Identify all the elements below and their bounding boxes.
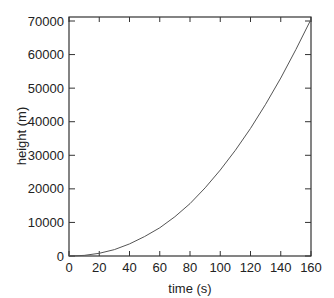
y-axis-ticks: 010000200003000040000500006000070000 bbox=[28, 14, 311, 264]
y-tick-label: 70000 bbox=[28, 14, 64, 29]
plot-frame bbox=[69, 17, 311, 256]
x-tick-label: 100 bbox=[209, 260, 231, 275]
y-axis-label: height (m) bbox=[14, 107, 29, 166]
x-tick-label: 0 bbox=[65, 260, 72, 275]
x-axis-ticks: 020406080100120140160 bbox=[65, 17, 321, 275]
height-curve bbox=[69, 19, 311, 256]
x-tick-label: 140 bbox=[270, 260, 292, 275]
y-tick-label: 60000 bbox=[28, 47, 64, 62]
x-tick-label: 40 bbox=[122, 260, 136, 275]
x-tick-label: 80 bbox=[183, 260, 197, 275]
y-tick-label: 30000 bbox=[28, 148, 64, 163]
x-axis-label: time (s) bbox=[168, 281, 211, 296]
y-tick-label: 40000 bbox=[28, 114, 64, 129]
y-tick-label: 10000 bbox=[28, 215, 64, 230]
y-tick-label: 20000 bbox=[28, 181, 64, 196]
line-chart: 020406080100120140160 010000200003000040… bbox=[0, 0, 334, 298]
x-tick-label: 120 bbox=[240, 260, 262, 275]
y-tick-label: 0 bbox=[57, 249, 64, 264]
x-tick-label: 60 bbox=[153, 260, 167, 275]
x-tick-label: 20 bbox=[92, 260, 106, 275]
y-tick-label: 50000 bbox=[28, 81, 64, 96]
x-tick-label: 160 bbox=[300, 260, 322, 275]
